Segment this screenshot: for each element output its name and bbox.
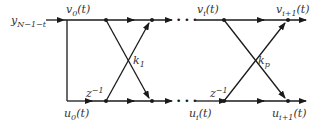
input-label: yN−1−t xyxy=(10,14,47,29)
label-vi1: vi+1(t) xyxy=(276,3,310,18)
coef-k1: k1 xyxy=(133,54,145,69)
coef-kp: kp xyxy=(258,54,270,69)
delay-stage2: z−1 xyxy=(209,86,228,100)
stage1-cross-down xyxy=(106,20,149,98)
label-v0: v0(t) xyxy=(66,3,90,18)
delay-stage1: z−1 xyxy=(85,86,104,100)
lattice-filter-diagram: yN−1−t • • • xyxy=(0,0,321,124)
label-ui: ui(t) xyxy=(189,107,212,122)
stage2-cross-down xyxy=(224,20,285,98)
stage2-cross-up xyxy=(224,23,285,101)
label-ui1: ui+1(t) xyxy=(272,107,306,122)
ellipsis-bottom: • • • xyxy=(176,96,198,106)
label-vi: vi(t) xyxy=(197,3,219,18)
label-u0: u0(t) xyxy=(64,107,89,122)
ellipsis-top: • • • xyxy=(176,15,198,25)
